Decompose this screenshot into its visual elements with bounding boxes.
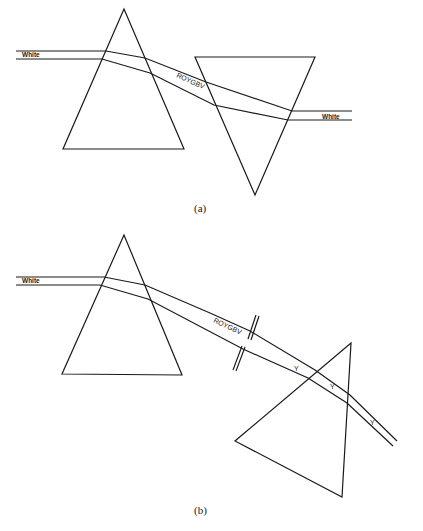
prism-b-right bbox=[235, 343, 351, 497]
prism-a-left bbox=[63, 9, 184, 149]
caption-a: (a) bbox=[194, 202, 207, 215]
label-y-3: Y bbox=[370, 419, 375, 426]
label-y-1: Y bbox=[294, 365, 299, 372]
caption-b: (b) bbox=[194, 504, 207, 517]
label-y-2: Y bbox=[330, 383, 335, 390]
label-white-out-a: White bbox=[322, 113, 340, 120]
beam-b-lower bbox=[16, 285, 393, 446]
figure-b: White ROYGBV Y Y Y (b) bbox=[16, 235, 397, 517]
label-white-in-b: White bbox=[22, 277, 40, 284]
prism-diagram: White ROYGBV White (a) White ROYGBV Y Y … bbox=[0, 0, 423, 531]
prism-b-left bbox=[62, 235, 182, 375]
label-white-in-a: White bbox=[22, 51, 40, 58]
beam-b-upper bbox=[16, 277, 397, 441]
slit bbox=[233, 315, 259, 371]
prism-a-inverted bbox=[195, 57, 315, 195]
figure-a: White ROYGBV White (a) bbox=[16, 9, 352, 215]
